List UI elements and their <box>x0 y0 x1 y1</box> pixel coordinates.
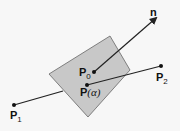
point-p2 <box>159 64 163 68</box>
diagram-svg <box>0 0 180 131</box>
point-p0 <box>92 70 96 74</box>
label-p-alpha: P(α) <box>80 87 100 98</box>
label-p2: P2 <box>156 72 168 86</box>
diagram-canvas: n P0 P(α) P1 P2 <box>0 0 180 131</box>
point-p1 <box>12 103 16 107</box>
label-normal: n <box>150 7 157 18</box>
label-p0: P0 <box>79 67 91 81</box>
label-p1: P1 <box>10 110 22 124</box>
segment-p1-to-plane <box>14 91 63 105</box>
